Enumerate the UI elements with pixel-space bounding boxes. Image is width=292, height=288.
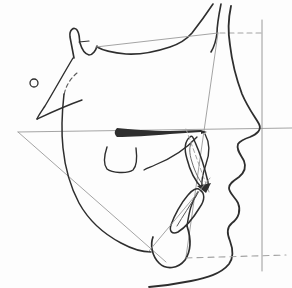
upper-incisor-inner-line	[190, 141, 203, 185]
molar-outline	[104, 147, 136, 173]
sella-dashed-arc	[64, 73, 77, 96]
cephalometric-tracing-figure	[0, 0, 292, 288]
lower-incisor-axis-line	[149, 178, 210, 251]
key-ridge-line	[37, 100, 82, 119]
bottom-dashed-line	[186, 255, 286, 258]
mandibular-plane-line	[18, 132, 166, 262]
tracing-canvas	[0, 0, 292, 288]
sella-nasion-line	[96, 33, 218, 47]
symphysis-outline	[152, 226, 190, 268]
porion-landmark-circle	[30, 79, 38, 87]
clinoid-tick	[79, 41, 89, 42]
cranial-base-outline	[97, 4, 213, 54]
ramus-mandible-border	[62, 94, 151, 252]
sella-turcica-outline	[70, 28, 97, 58]
pterygoid-line	[37, 58, 73, 119]
lower-incisor-inner-line	[177, 196, 196, 226]
